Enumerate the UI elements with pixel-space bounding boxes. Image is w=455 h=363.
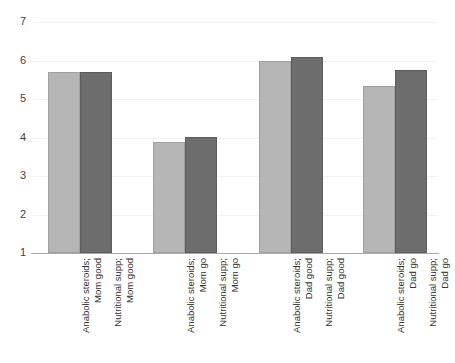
- category-label-line1: Anabolic steroids;: [395, 258, 407, 363]
- category-label: Anabolic steroids;Dad go: [395, 258, 425, 363]
- category-labels-layer: Anabolic steroids;Mom goodNutritional su…: [33, 256, 437, 363]
- category-label: Nutritional supp;Dad good: [323, 258, 353, 363]
- category-label-line1: Anabolic steroids;: [291, 258, 303, 363]
- category-label-line2: Mom good: [92, 258, 104, 363]
- category-label-line1: Nutritional supp;: [427, 258, 439, 363]
- category-label-line2: Mom go: [197, 258, 209, 363]
- category-label-line1: Nutritional supp;: [112, 258, 124, 363]
- category-label: Nutritional supp;Dad go: [427, 258, 455, 363]
- category-label: Nutritional supp;Mom go: [217, 258, 247, 363]
- category-label-line1: Anabolic steroids;: [80, 258, 92, 363]
- bar: [80, 72, 112, 253]
- bar: [153, 142, 185, 253]
- bar: [395, 70, 427, 253]
- category-label-line1: Nutritional supp;: [217, 258, 229, 363]
- x-axis-line: [31, 253, 439, 254]
- category-label-line1: Anabolic steroids;: [185, 258, 197, 363]
- y-axis-tick-label: 5: [0, 93, 26, 104]
- y-axis-tick-label: 1: [0, 247, 26, 258]
- category-label-line2: Dad good: [335, 258, 347, 363]
- bar: [363, 86, 395, 253]
- category-label-line1: Nutritional supp;: [323, 258, 335, 363]
- category-label: Anabolic steroids;Mom good: [80, 258, 110, 363]
- category-label-line2: Dad go: [439, 258, 451, 363]
- y-axis-tick-label: 6: [0, 55, 26, 66]
- bar: [185, 137, 217, 253]
- category-label: Nutritional supp;Mom good: [112, 258, 142, 363]
- bar: [259, 61, 291, 254]
- bar: [48, 72, 80, 253]
- category-label-line2: Dad go: [407, 258, 419, 363]
- category-label: Anabolic steroids;Dad good: [291, 258, 321, 363]
- bar: [291, 57, 323, 253]
- category-label-line2: Mom go: [229, 258, 241, 363]
- category-label-line2: Mom good: [124, 258, 136, 363]
- category-label: Anabolic steroids;Mom go: [185, 258, 215, 363]
- bars-layer: [33, 18, 437, 253]
- category-label-line2: Dad good: [303, 258, 315, 363]
- y-axis-tick-label: 2: [0, 209, 26, 220]
- y-axis-tick-label: 7: [0, 16, 26, 27]
- y-axis-tick-label: 4: [0, 132, 26, 143]
- y-axis-tick-label: 3: [0, 170, 26, 181]
